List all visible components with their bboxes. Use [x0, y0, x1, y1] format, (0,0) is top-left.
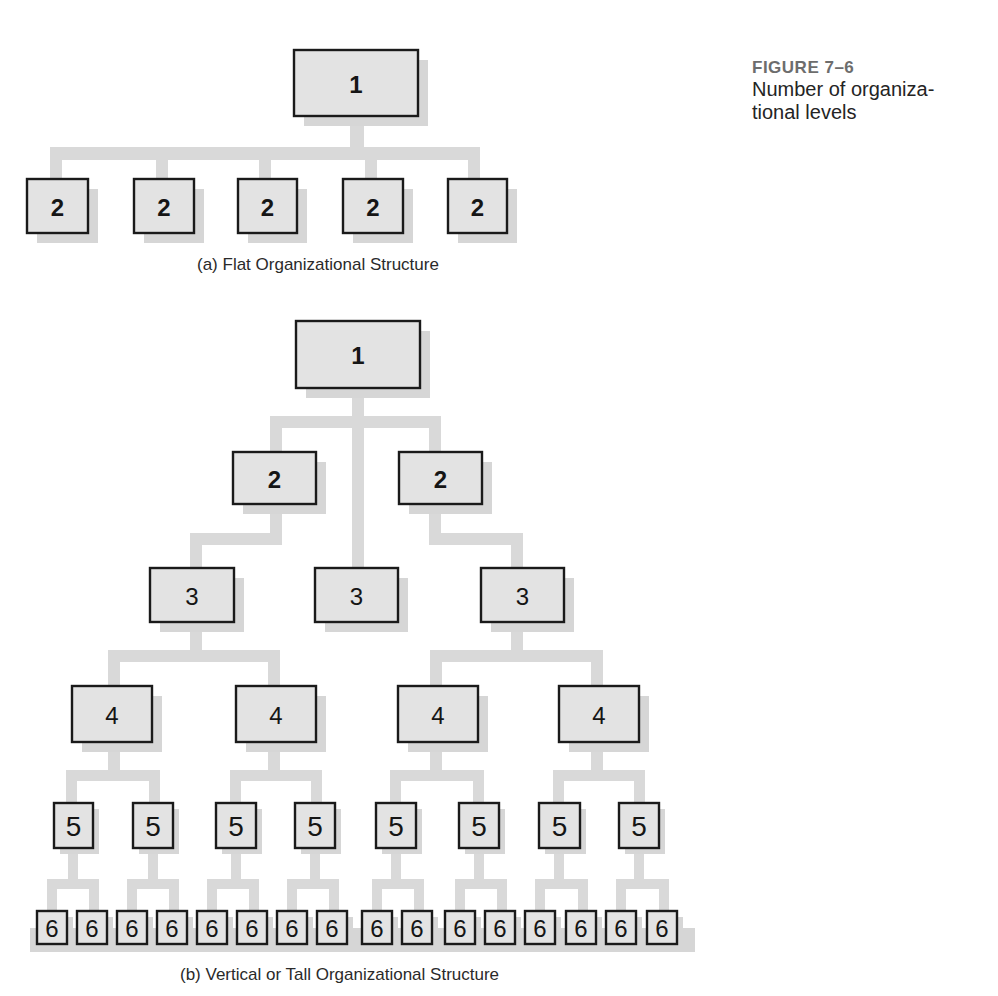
- connector-segment: [108, 650, 120, 686]
- tall-level-6-box: 6: [117, 911, 153, 950]
- level-number-label: 6: [285, 915, 298, 942]
- level-number-label: 5: [307, 811, 323, 842]
- level-number-label: 6: [614, 915, 627, 942]
- connector-segment: [414, 879, 424, 911]
- connector-segment: [66, 770, 77, 803]
- level-number-label: 6: [325, 915, 338, 942]
- tall-level-6-box: 6: [647, 911, 683, 950]
- connector-segment: [365, 147, 377, 179]
- tall-level-6-box: 6: [606, 911, 642, 950]
- level-number-label: 4: [105, 702, 118, 729]
- tall-level-5-box: 5: [619, 803, 665, 854]
- connector-segment: [429, 533, 523, 545]
- level-number-label: 5: [145, 811, 161, 842]
- level-number-label: 6: [45, 915, 58, 942]
- connector-segment: [249, 879, 259, 911]
- tall-level-5-box: 5: [459, 803, 505, 854]
- tall-level-5-box: 5: [133, 803, 179, 854]
- flat-level-2-box: 2: [134, 179, 204, 243]
- tall-level-5-box: 5: [539, 803, 586, 854]
- level-number-label: 2: [157, 194, 170, 221]
- level-number-label: 6: [533, 915, 546, 942]
- flat-level-2-box: 2: [448, 179, 517, 243]
- level-number-label: 1: [351, 342, 364, 369]
- tall-level-6-box: 6: [525, 911, 561, 950]
- level-number-label: 6: [574, 915, 587, 942]
- level-number-label: 1: [349, 71, 362, 98]
- flat-structure-chart: 122222: [27, 50, 517, 243]
- connector-segment: [230, 770, 322, 781]
- connector-segment: [156, 147, 168, 179]
- tall-level-3-box: 3: [481, 568, 574, 632]
- caption-tall-structure: (b) Vertical or Tall Organizational Stru…: [180, 965, 499, 985]
- tall-level-4-box: 4: [236, 686, 326, 752]
- level-number-label: 2: [51, 194, 64, 221]
- level-number-label: 4: [269, 702, 282, 729]
- tall-level-6-box: 6: [237, 911, 273, 950]
- tall-level-6-box: 6: [197, 911, 233, 950]
- connector-segment: [455, 879, 465, 911]
- flat-level-2-box: 2: [343, 179, 413, 243]
- connector-segment: [169, 879, 179, 911]
- caption-flat-structure: (a) Flat Organizational Structure: [197, 255, 439, 275]
- connector-segment: [311, 770, 322, 803]
- connector-segment: [497, 879, 507, 911]
- tall-level-5-box: 5: [376, 803, 422, 854]
- connector-segment: [578, 879, 588, 911]
- connector-segment: [553, 770, 564, 803]
- level-number-label: 6: [205, 915, 218, 942]
- org-structure-diagram: 122222 122333444455555555666666666666666…: [0, 0, 998, 996]
- tall-level-3-box: 3: [150, 568, 244, 632]
- connector-segment: [390, 770, 401, 803]
- connector-segment: [553, 770, 645, 781]
- connector-segment: [591, 650, 603, 686]
- connector-segment: [127, 879, 137, 911]
- connector-segment: [66, 770, 160, 781]
- connector-segment: [207, 879, 217, 911]
- level-number-label: 3: [516, 583, 529, 610]
- tall-level-5-box: 5: [216, 803, 262, 854]
- tall-level-6-box: 6: [402, 911, 438, 950]
- connector-segment: [190, 533, 202, 568]
- tall-level-1-box: 1: [296, 321, 430, 398]
- level-number-label: 3: [185, 583, 198, 610]
- tall-level-5-box: 5: [54, 803, 99, 854]
- connector-segment: [430, 650, 603, 662]
- flat-level-2-box: 2: [238, 179, 307, 243]
- tall-level-4-box: 4: [398, 686, 488, 752]
- level-number-label: 2: [366, 194, 379, 221]
- connector-segment: [372, 879, 382, 911]
- connector-segment: [270, 416, 282, 452]
- level-number-label: 3: [350, 583, 363, 610]
- level-number-label: 6: [370, 915, 383, 942]
- connector-segment: [149, 770, 160, 803]
- level-number-label: 6: [245, 915, 258, 942]
- level-number-label: 4: [431, 702, 444, 729]
- level-number-label: 5: [388, 811, 404, 842]
- tall-level-6-box: 6: [157, 911, 193, 950]
- tall-level-6-box: 6: [277, 911, 313, 950]
- level-number-label: 6: [85, 915, 98, 942]
- level-number-label: 5: [228, 811, 244, 842]
- connector-segment: [329, 879, 339, 911]
- level-number-label: 6: [655, 915, 668, 942]
- tall-level-6-box: 6: [566, 911, 602, 950]
- connector-segment: [268, 650, 280, 686]
- connector-segment: [89, 879, 99, 911]
- connector-segment: [634, 770, 645, 803]
- level-number-label: 2: [268, 466, 281, 493]
- level-number-label: 6: [453, 915, 466, 942]
- level-number-label: 5: [552, 811, 568, 842]
- level-number-label: 2: [434, 466, 447, 493]
- flat-level-2-box: 2: [27, 179, 98, 243]
- connector-segment: [270, 416, 440, 428]
- connector-segment: [230, 770, 241, 803]
- tall-level-6-box: 6: [485, 911, 521, 950]
- tall-level-6-box: 6: [37, 911, 73, 950]
- connector-segment: [430, 650, 442, 686]
- connector-segment: [287, 879, 297, 911]
- connector-segment: [50, 147, 62, 179]
- tall-level-3-box: 3: [315, 568, 408, 632]
- connector-segment: [190, 533, 282, 545]
- connector-segment: [535, 879, 545, 911]
